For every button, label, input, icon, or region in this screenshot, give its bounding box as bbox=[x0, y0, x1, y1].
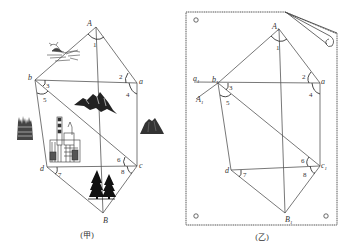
angle-number-7: 7 bbox=[58, 171, 62, 179]
point-label-a: a bbox=[139, 77, 143, 86]
angle-number-6-right: 6 bbox=[301, 157, 305, 165]
angle-arc-6 bbox=[124, 157, 126, 166]
angle-number-8: 8 bbox=[121, 168, 125, 176]
angle-arc-4 bbox=[129, 83, 137, 94]
angle-number-4: 4 bbox=[126, 91, 130, 99]
line-A-a bbox=[96, 27, 137, 83]
point-label-c: c bbox=[139, 161, 143, 170]
point-label-d: d bbox=[40, 164, 45, 173]
caption-right: (乙) bbox=[255, 233, 269, 242]
angle-arc-2 bbox=[125, 73, 128, 83]
hill-icon bbox=[140, 118, 164, 134]
figure-left: A b a d c B 1 2 3 4 5 6 7 8 bbox=[17, 19, 164, 240]
factory-icon bbox=[50, 117, 80, 162]
angle-number-7-right: 7 bbox=[243, 171, 247, 179]
angle-number-2-right: 2 bbox=[302, 73, 306, 81]
angle-number-5: 5 bbox=[43, 96, 47, 104]
figure-right: A1 b1 a a1 A1 d c1 B1 1 2 3 4 5 6 7 8 (乙… bbox=[186, 12, 337, 242]
point-label-b: b bbox=[28, 73, 32, 82]
angle-number-1: 1 bbox=[93, 41, 97, 49]
line-d-c bbox=[47, 166, 137, 167]
angle-number-4-right: 4 bbox=[309, 91, 313, 99]
forest-icon bbox=[17, 116, 33, 142]
angle-number-2: 2 bbox=[119, 73, 123, 81]
angle-arc-5 bbox=[37, 91, 48, 94]
angle-arc-7 bbox=[55, 167, 57, 174]
point-label-A: A bbox=[86, 19, 92, 28]
line-A-b bbox=[35, 27, 96, 80]
angle-number-3: 3 bbox=[46, 82, 50, 90]
angle-number-8-right: 8 bbox=[303, 171, 307, 179]
plane-table-survey-diagram: A b a d c B 1 2 3 4 5 6 7 8 bbox=[0, 0, 351, 251]
caption-left: (甲) bbox=[80, 231, 94, 240]
angle-number-6: 6 bbox=[117, 156, 121, 164]
angle-arc-3 bbox=[43, 80, 45, 86]
mountain-icon bbox=[74, 92, 117, 114]
point-label-a: a bbox=[321, 77, 325, 86]
point-label-B: B bbox=[103, 216, 108, 225]
angle-number-1-right: 1 bbox=[276, 44, 280, 52]
angle-arc-8 bbox=[127, 166, 132, 173]
angle-number-5-right: 5 bbox=[226, 99, 230, 107]
angle-number-3-right: 3 bbox=[229, 84, 233, 92]
